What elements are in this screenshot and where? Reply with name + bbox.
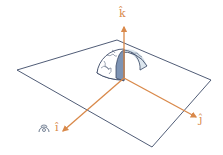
hemisphere-globe [97,49,147,81]
j-axis-label: ĵ [199,114,202,125]
k-axis-label: k̂ [119,8,126,19]
j-axis [124,78,196,117]
coordinate-frame-diagram [0,0,223,155]
eye-icon [38,124,50,135]
i-axis [63,78,124,131]
i-axis-label: î [55,122,59,133]
